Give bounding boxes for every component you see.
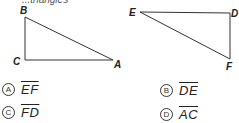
answer-option-b[interactable]: B DE xyxy=(160,83,198,98)
answer-option-d[interactable]: D AC xyxy=(160,107,198,122)
option-segment-d: AC xyxy=(179,107,198,122)
option-segment-c: FD xyxy=(21,105,39,120)
triangle-abc: B C A xyxy=(13,5,121,70)
answer-option-c[interactable]: C FD xyxy=(2,105,39,120)
option-segment-b: DE xyxy=(179,83,198,98)
answer-option-a[interactable]: A EF xyxy=(2,82,39,97)
vertex-label-d: D xyxy=(231,8,238,19)
option-bubble-d[interactable]: D xyxy=(160,108,173,121)
vertex-label-a: A xyxy=(113,59,121,70)
option-bubble-b[interactable]: B xyxy=(160,84,173,97)
vertex-label-e: E xyxy=(129,7,136,18)
option-bubble-c[interactable]: C xyxy=(2,106,15,119)
vertex-label-f: F xyxy=(226,61,233,72)
triangle-edf: E D F xyxy=(129,7,238,72)
vertex-label-b: B xyxy=(20,5,27,16)
triangles-figure: B C A E D F xyxy=(0,0,239,75)
vertex-label-c: C xyxy=(13,56,21,67)
option-segment-a: EF xyxy=(21,82,39,97)
option-bubble-a[interactable]: A xyxy=(2,83,15,96)
